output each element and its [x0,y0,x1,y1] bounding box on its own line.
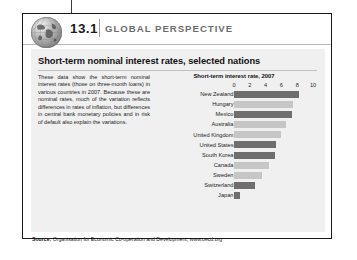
chart-bar-row: United States [150,140,318,150]
chart-title: Short-term interest rate, 2007 [150,73,318,79]
bar [234,162,269,169]
bar [234,121,286,128]
content-panel: Short-term nominal interest rates, selec… [31,49,325,232]
bar-category-label: South Korea [202,152,233,158]
x-tick-label: 6 [280,82,283,88]
globe-icon [31,17,62,48]
header-title: GLOBAL PERSPECTIVE [105,23,233,34]
x-tick-label: 4 [264,82,267,88]
chart-bar-row: Japan [150,191,318,201]
bar [234,101,293,108]
chart-bar-row: Canada [150,161,318,171]
bar-category-label: Japan [218,192,233,198]
chart-bar-row: Australia [150,120,318,130]
bar-category-label: Hungary [212,101,233,107]
x-tick-label: 8 [296,82,299,88]
source-line: Source: Organisation for Economic Co-ope… [32,236,222,242]
bar [234,182,255,189]
bar-category-label: Sweden [213,172,233,178]
x-tick-label: 10 [310,82,316,88]
bar [234,111,292,118]
bar-category-label: United Kingdom [193,132,233,138]
chart-bar-row: Switzerland [150,181,318,191]
bar-category-label: Mexico [216,111,234,117]
chart-bar-row: Sweden [150,171,318,181]
bar [234,91,299,98]
chart-bar-row: United Kingdom [150,130,318,140]
bar [234,192,240,199]
panel-rule [38,70,317,71]
chart-bar-row: South Korea [150,151,318,161]
chart-bar-row: Hungary [150,100,318,110]
x-tick-label: 2 [248,82,251,88]
chart-bar-row: Mexico [150,110,318,120]
bar-category-label: New Zealand [200,91,233,97]
bar-chart: Short-term interest rate, 2007 0246810 N… [150,73,318,206]
bar [234,172,262,179]
bar-category-label: United States [200,142,234,148]
page-gutter-rule [71,0,72,13]
chapter-number: 13.1 [70,21,98,36]
panel-title: Short-term nominal interest rates, selec… [38,56,260,66]
bar-category-label: Canada [214,162,234,168]
box-header: 13.1 GLOBAL PERSPECTIVE [23,14,331,45]
chart-plot-area: New ZealandHungaryMexicoAustraliaUnited … [150,90,318,201]
header-divider [99,19,100,37]
bar-category-label: Switzerland [204,182,233,188]
x-axis-ticks: 0246810 [150,82,318,90]
bar [234,131,281,138]
bar-category-label: Australia [212,121,234,127]
panel-blurb: These data show the short-term nominal i… [38,74,150,126]
source-text: Organisation for Economic Co-operation a… [51,236,222,242]
source-label: Source: [32,236,51,242]
x-tick-label: 0 [232,82,235,88]
bar [234,141,276,148]
global-perspective-box: 13.1 GLOBAL PERSPECTIVE Short-term nomin… [22,13,332,239]
bar [234,152,275,159]
chart-bar-row: New Zealand [150,90,318,100]
